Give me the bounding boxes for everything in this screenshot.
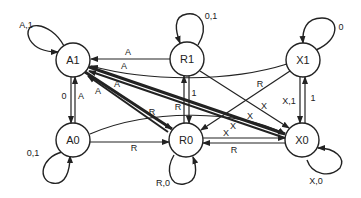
svg-text:R1: R1 (180, 53, 194, 65)
loop-label-X0: X,0 (309, 176, 323, 186)
edge-label-R0-A1: A (95, 86, 101, 96)
loop-label-A0: 0,1 (27, 148, 40, 158)
svg-text:X1: X1 (296, 54, 309, 66)
edge-label-A1-R0: R (149, 107, 156, 117)
edge-label-X0-X1: 1 (310, 93, 315, 103)
node-R1: R1 (170, 42, 204, 76)
edge-label-X0-A1: A (114, 79, 120, 89)
node-A1: A1 (56, 43, 90, 77)
state-diagram: A1 R1 X1 A0 R0 X0 A,1 0,1 0 0,1 R,0 X,0 … (0, 0, 361, 198)
edge-label-X1-X0: X,1 (282, 96, 296, 106)
edge-label-R0-R1: 1 (191, 88, 196, 98)
edge-label-A0-X0: X (230, 121, 236, 131)
node-X1: X1 (286, 43, 320, 77)
loop-label-R1: 0,1 (205, 11, 218, 21)
edge-label-A0-R0: R (131, 143, 138, 153)
edge-label-A1-A0: 0 (61, 91, 66, 101)
edge-label-X1-A1: A (121, 61, 127, 71)
svg-text:A0: A0 (66, 134, 79, 146)
edge-label-X1-R0: R (257, 79, 264, 89)
loop-label-A1: A,1 (19, 20, 33, 30)
edge-label-R1-R0: R (175, 102, 182, 112)
self-loop-R1 (176, 14, 203, 45)
edge-label-A0-A1: A (78, 91, 84, 101)
svg-text:A1: A1 (66, 54, 79, 66)
self-loop-A1 (28, 26, 64, 52)
edge-label-R0-X0: X (223, 128, 229, 138)
svg-text:X0: X0 (295, 134, 308, 146)
loop-label-R0: R,0 (156, 178, 170, 188)
node-X0: X0 (285, 123, 319, 157)
node-R0: R0 (169, 123, 203, 157)
edge-label-R1-X0: X (261, 101, 267, 111)
self-loop-A0 (43, 152, 70, 183)
svg-text:R0: R0 (179, 134, 193, 146)
edge-label-A1-X0: X (247, 111, 253, 121)
loop-label-X1: 0 (338, 22, 343, 32)
edge-label-X0-R0: R (231, 145, 238, 155)
node-A0: A0 (56, 123, 90, 157)
edge-label-R1-A1: A (125, 47, 131, 57)
self-loop-R0 (169, 155, 195, 184)
